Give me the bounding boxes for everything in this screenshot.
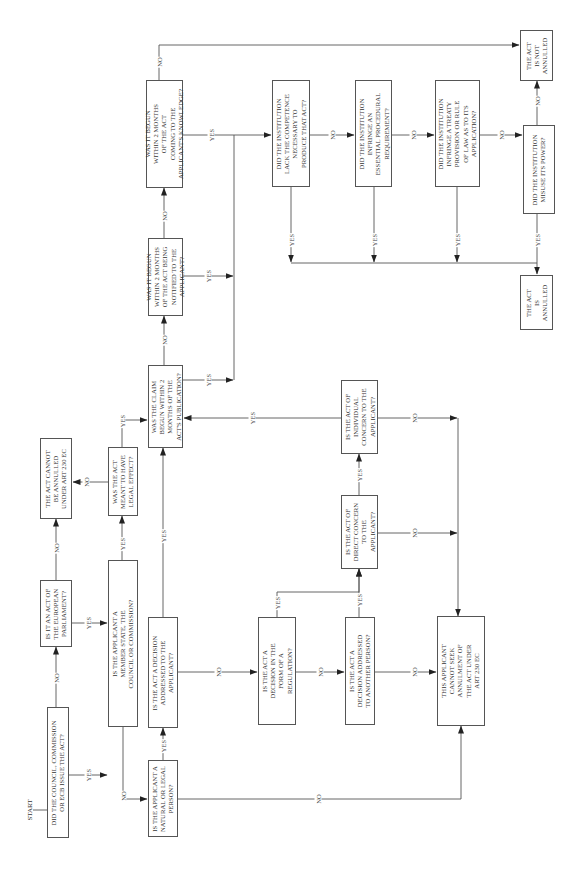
node-another-person-question: IS THE ACT A DECISION ADDRESSED TO ANOTH… bbox=[345, 617, 375, 725]
node-text: IS THE ACT A DECISION ADDRESSED TO THE A… bbox=[151, 635, 176, 710]
edge-label-yes: YES bbox=[85, 768, 92, 782]
edge-label-yes: YES bbox=[356, 593, 363, 607]
edge-label-no: NO bbox=[215, 666, 222, 677]
node-text: IS THE APPLICANT A MEMBER STATE, THE COU… bbox=[111, 599, 136, 688]
node-text: IS THE APPLICANT A NATURAL OR LEGAL PERS… bbox=[151, 765, 176, 831]
edge-label-no: NO bbox=[83, 476, 90, 487]
node-text: DID THE INSTITUTION INFRINGE AN ESSENTIA… bbox=[357, 92, 390, 175]
node-cannot-be-annulled: THE ACT CANNOT BE ANNULLED UNDER ART 230… bbox=[40, 438, 72, 519]
edge-label-yes: YES bbox=[288, 233, 295, 247]
node-treaty-infringement-question: DID THE INSTITUTION INFRINGE A TREATY PR… bbox=[435, 80, 480, 187]
edge-label-yes: YES bbox=[356, 468, 363, 482]
node-text: IS THE ACT OF DIRECT CONCERN TO THE APPL… bbox=[343, 503, 376, 561]
node-text: IS THE ACT A DECISION ADDRESSED TO ANOTH… bbox=[348, 634, 373, 707]
node-publication-time-question: WAS THE CLAIM BEGUN WITHIN 2 MONTHS OF T… bbox=[148, 365, 183, 448]
node-text: WAS THE ACT MEANT TO HAVE LEGAL EFFECT? bbox=[111, 455, 136, 509]
node-text: THE ACT CANNOT BE ANNULLED UNDER ART 230… bbox=[44, 449, 69, 509]
node-issuer-question: DID THE COUNCIL, COMMISSION OR ECB ISSUE… bbox=[47, 707, 69, 838]
edge-label-yes: YES bbox=[274, 596, 281, 610]
edge-label-yes: YES bbox=[85, 616, 92, 630]
edge-label-no: NO bbox=[411, 412, 418, 423]
edge-label-yes: YES bbox=[208, 128, 215, 142]
node-european-parliament-question: IS IT AN ACT OF THE EUROPEAN PARLIAMENT? bbox=[40, 580, 72, 647]
edge-label-no: NO bbox=[410, 129, 417, 140]
edge-label-yes: YES bbox=[454, 233, 461, 247]
node-notification-time-question: WAS IT BEGUN WITHIN 2 MONTHS OF THE ACT … bbox=[148, 238, 183, 316]
edge-label-no: NO bbox=[411, 666, 418, 677]
edge-label-yes: YES bbox=[119, 414, 126, 428]
edge-label-yes: YES bbox=[205, 269, 212, 283]
edge-label-no: NO bbox=[120, 790, 127, 801]
node-text: DID THE INSTITUTION LACK THE COMPETENCE … bbox=[275, 94, 308, 174]
node-text: IS THE ACT A DECISION IN THE FORM OF A R… bbox=[261, 643, 294, 698]
edge-label-no: NO bbox=[498, 129, 505, 140]
edge-label-no: NO bbox=[53, 672, 60, 683]
node-competence-question: DID THE INSTITUTION LACK THE COMPETENCE … bbox=[272, 80, 310, 187]
start-label: START bbox=[26, 799, 34, 820]
edge-label-yes: YES bbox=[205, 373, 212, 387]
node-annulled: THE ACT IS ANNULLED bbox=[520, 275, 553, 330]
node-text: THE ACT IS NOT ANNULLED bbox=[524, 37, 549, 74]
edge-label-no: NO bbox=[53, 542, 60, 553]
node-text: DID THE INSTITUTION MISUSE ITS POWER? bbox=[531, 134, 547, 205]
node-text: WAS IT BEGUN WITHIN 2 MONTHS OF THE ACT … bbox=[144, 89, 185, 179]
node-text: DID THE COUNCIL, COMMISSION OR ECB ISSUE… bbox=[50, 720, 66, 825]
node-text: DID THE INSTITUTION INFRINGE A TREATY PR… bbox=[437, 98, 478, 169]
node-text: IS IT AN ACT OF THE EUROPEAN PARLIAMENT? bbox=[44, 588, 69, 639]
node-text: WAS IT BEGUN WITHIN 2 MONTHS OF THE ACT … bbox=[145, 247, 186, 308]
edge-label-no: NO bbox=[161, 210, 168, 221]
edge-label-yes: YES bbox=[534, 233, 541, 247]
edge-label-no: NO bbox=[329, 129, 336, 140]
node-legal-effect-question: WAS THE ACT MEANT TO HAVE LEGAL EFFECT? bbox=[108, 447, 138, 516]
node-direct-concern-question: IS THE ACT OF DIRECT CONCERN TO THE APPL… bbox=[341, 495, 378, 569]
node-procedural-question: DID THE INSTITUTION INFRINGE AN ESSENTIA… bbox=[355, 80, 392, 187]
node-text: THE ACT IS ANNULLED bbox=[524, 284, 549, 321]
node-text: THIS APPLICANT CANNOT SEEK ANNULMENT OF … bbox=[440, 644, 481, 698]
edge-label-yes: YES bbox=[119, 537, 126, 551]
node-privileged-applicant-question: IS THE APPLICANT A MEMBER STATE, THE COU… bbox=[108, 560, 138, 727]
edge-label-no: NO bbox=[411, 527, 418, 538]
node-form-of-regulation-question: IS THE ACT A DECISION IN THE FORM OF A R… bbox=[258, 617, 296, 725]
node-not-annulled: THE ACT IS NOT ANNULLED bbox=[520, 30, 553, 81]
edge-label-no: NO bbox=[156, 56, 163, 67]
edge-label-yes: YES bbox=[249, 411, 256, 425]
node-natural-legal-person-question: IS THE APPLICANT A NATURAL OR LEGAL PERS… bbox=[148, 760, 178, 837]
node-decision-to-applicant-question: IS THE ACT A DECISION ADDRESSED TO THE A… bbox=[148, 617, 178, 728]
node-knowledge-time-question: WAS IT BEGUN WITHIN 2 MONTHS OF THE ACT … bbox=[146, 80, 183, 188]
node-cannot-seek-annulment: THIS APPLICANT CANNOT SEEK ANNULMENT OF … bbox=[437, 616, 485, 726]
edge-label-no: NO bbox=[315, 793, 322, 804]
node-misuse-of-power-question: DID THE INSTITUTION MISUSE ITS POWER? bbox=[523, 125, 555, 214]
edge-label-no: NO bbox=[317, 666, 324, 677]
edge-label-no: NO bbox=[161, 334, 168, 345]
node-text: IS THE ACT OF INDIVIDUAL CONCERN TO THE … bbox=[343, 388, 376, 445]
node-individual-concern-question: IS THE ACT OF INDIVIDUAL CONCERN TO THE … bbox=[341, 380, 378, 454]
edge-label-no: NO bbox=[534, 95, 541, 106]
node-text: WAS THE CLAIM BEGUN WITHIN 2 MONTHS OF T… bbox=[149, 373, 182, 441]
edge-label-yes: YES bbox=[160, 739, 167, 753]
annulment-flowchart: START DID THE COUNCIL, COMMISSION OR ECB… bbox=[0, 0, 577, 870]
edge-label-yes: YES bbox=[160, 529, 167, 543]
edge-label-yes: YES bbox=[371, 233, 378, 247]
